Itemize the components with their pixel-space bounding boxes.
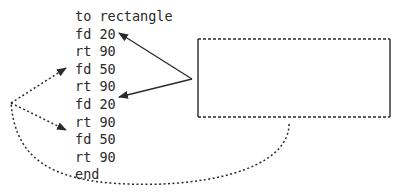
arrow-to-fd20-first xyxy=(119,33,192,79)
dotted-curve-from-rectangle xyxy=(11,103,289,184)
arrow-to-fd50-first xyxy=(11,68,66,103)
solid-arrows xyxy=(119,33,192,97)
arrow-to-fd50-second xyxy=(11,103,66,130)
diagram-canvas xyxy=(0,0,403,195)
arrow-to-fd20-second xyxy=(119,79,192,97)
dotted-arrows xyxy=(11,68,289,184)
rectangle-shape xyxy=(198,39,390,117)
